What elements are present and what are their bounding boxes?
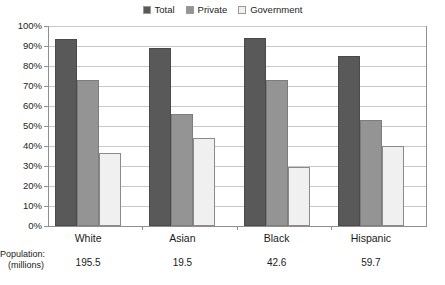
population-row-label: Population: (millions) — [0, 249, 44, 271]
bar-group — [49, 26, 143, 226]
x-axis-line — [48, 226, 427, 227]
legend-item-total: Total — [143, 5, 175, 15]
legend-swatch-government-icon — [238, 6, 246, 14]
legend-label-government: Government — [250, 5, 302, 15]
legend-item-private: Private — [186, 5, 228, 15]
bar-government-hispanic — [382, 146, 404, 226]
bar-government-black — [288, 167, 310, 226]
bar-private-black — [266, 80, 288, 226]
y-tick-label: 80% — [23, 61, 42, 71]
y-tick-label: 0% — [28, 221, 42, 231]
population-value: 42.6 — [238, 258, 332, 268]
legend-item-government: Government — [238, 5, 302, 15]
y-tick-label: 50% — [23, 121, 42, 131]
bar-government-white — [99, 153, 121, 226]
grouped-bar-chart: Total Private Government 100%90%80%70%60… — [0, 0, 445, 285]
y-tick-label: 30% — [23, 161, 42, 171]
x-axis-category-label: White — [49, 233, 143, 244]
population-value: 59.7 — [332, 258, 426, 268]
right-axis-line — [426, 26, 427, 227]
legend-label-total: Total — [155, 5, 175, 15]
y-tick-label: 100% — [18, 21, 42, 31]
chart-legend: Total Private Government — [0, 3, 445, 17]
bar-total-black — [244, 38, 266, 226]
bar-private-asian — [171, 114, 193, 226]
population-values-row: 195.519.542.659.7 — [49, 258, 426, 268]
y-axis-tick-labels: 100%90%80%70%60%50%40%30%20%10%0% — [0, 26, 42, 227]
bar-group — [332, 26, 426, 226]
population-value: 195.5 — [49, 258, 143, 268]
bar-group-bars — [332, 26, 426, 226]
bar-group-bars — [238, 26, 332, 226]
bar-total-hispanic — [338, 56, 360, 226]
bar-group — [238, 26, 332, 226]
y-tick-label: 60% — [23, 101, 42, 111]
plot-area — [48, 26, 427, 226]
bar-groups — [49, 26, 426, 226]
bar-total-white — [55, 39, 77, 226]
y-tick-label: 90% — [23, 41, 42, 51]
legend-swatch-private-icon — [186, 6, 194, 14]
legend-label-private: Private — [198, 5, 228, 15]
y-tick-label: 10% — [23, 201, 42, 211]
bar-group — [143, 26, 237, 226]
x-axis-category-label: Black — [238, 233, 332, 244]
y-tick-label: 70% — [23, 81, 42, 91]
bar-private-white — [77, 80, 99, 226]
x-axis-category-label: Asian — [143, 233, 237, 244]
population-value: 19.5 — [143, 258, 237, 268]
population-label-line1: Population: — [0, 249, 44, 260]
bar-government-asian — [193, 138, 215, 226]
bar-private-hispanic — [360, 120, 382, 226]
legend-swatch-total-icon — [143, 6, 151, 14]
bar-total-asian — [149, 48, 171, 226]
bar-group-bars — [49, 26, 143, 226]
x-axis-category-labels: WhiteAsianBlackHispanic — [49, 233, 426, 244]
x-axis-category-label: Hispanic — [332, 233, 426, 244]
y-tick-label: 40% — [23, 141, 42, 151]
y-tick-label: 20% — [23, 181, 42, 191]
population-label-line2: (millions) — [0, 260, 44, 271]
bar-group-bars — [143, 26, 237, 226]
